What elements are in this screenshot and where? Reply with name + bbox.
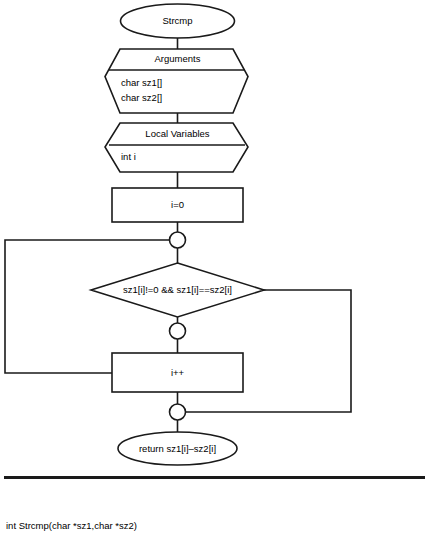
connector-loop-true[interactable] <box>170 323 186 339</box>
flowchart-canvas: Strcmp Arguments char sz1[] char sz2[] L… <box>0 0 429 470</box>
node-locals-var-1: int i <box>121 151 136 162</box>
node-end-label: return sz1[i]–sz2[i] <box>139 443 216 454</box>
node-start-label: Strcmp <box>162 15 192 26</box>
section-divider-rule <box>4 476 425 479</box>
connector-loop-bottom[interactable] <box>170 404 186 420</box>
node-increment-label: i++ <box>171 367 185 378</box>
node-arguments-header-label: Arguments <box>155 53 201 64</box>
node-locals-header-label: Local Variables <box>145 128 210 139</box>
connector-loop-top[interactable] <box>170 232 186 248</box>
node-condition-label: sz1[i]!=0 && sz1[i]==sz2[i] <box>123 284 232 295</box>
node-arguments-param-2: char sz2[] <box>121 92 162 103</box>
edge-condition-false <box>186 290 351 412</box>
node-arguments-param-1: char sz1[] <box>121 77 162 88</box>
node-init-label: i=0 <box>171 199 184 210</box>
code-line-1: int Strcmp(char *sz1,char *sz2) <box>6 518 423 534</box>
source-code-block: int Strcmp(char *sz1,char *sz2) { int i;… <box>6 487 423 547</box>
